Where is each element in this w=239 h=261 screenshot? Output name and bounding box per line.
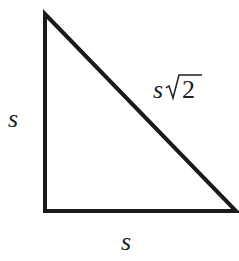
hypotenuse-label: s 2 <box>153 75 202 104</box>
hypotenuse-variable: s <box>153 75 163 104</box>
hypotenuse-radicand: 2 <box>182 75 195 104</box>
triangle-figure: s s s 2 <box>0 0 239 261</box>
triangle-diagram: s s s 2 <box>0 0 239 261</box>
left-side-label: s <box>8 104 18 133</box>
right-triangle <box>45 14 236 211</box>
bottom-side-label: s <box>121 227 131 256</box>
